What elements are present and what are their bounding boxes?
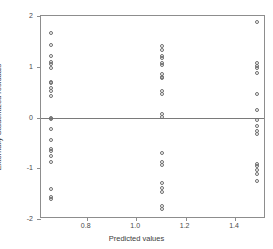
data-point (160, 63, 164, 67)
y-axis-tick-label: 2 (0, 12, 33, 19)
data-point (255, 172, 259, 176)
data-point (49, 149, 53, 153)
data-point (160, 190, 164, 194)
data-point (49, 81, 53, 85)
data-point (255, 124, 259, 128)
data-point (255, 168, 259, 172)
data-point (160, 76, 164, 80)
y-axis-tick-label: -1 (0, 164, 33, 171)
data-point (49, 187, 53, 191)
data-point (49, 127, 53, 131)
x-axis-tick-label: 1.4 (229, 222, 239, 229)
data-point (49, 43, 53, 47)
data-point (49, 160, 53, 164)
zero-reference-line (41, 118, 264, 119)
x-axis-tick-label: 0.8 (81, 222, 91, 229)
data-point (49, 94, 53, 98)
data-point (255, 118, 259, 122)
x-axis-tick (186, 217, 187, 221)
data-point (49, 117, 53, 121)
y-axis-title: Externally Studentized residuals (0, 64, 3, 171)
x-axis-tick (87, 217, 88, 221)
y-axis-tick (37, 219, 41, 220)
data-point (160, 92, 164, 96)
data-point (49, 89, 53, 93)
data-point (49, 154, 53, 158)
y-axis-tick (37, 168, 41, 169)
x-axis-tick-label: 1.0 (130, 222, 140, 229)
data-point (160, 48, 164, 52)
x-axis-tick-label: 1.2 (180, 222, 190, 229)
data-point (49, 54, 53, 58)
data-point (49, 197, 53, 201)
y-axis-tick-label: 0 (0, 113, 33, 120)
data-point (255, 132, 259, 136)
x-axis-title: Predicted values (0, 234, 273, 243)
data-point (255, 108, 259, 112)
data-point (255, 71, 259, 75)
data-point (160, 56, 164, 60)
data-point (160, 151, 164, 155)
x-axis-tick (136, 217, 137, 221)
plot-frame (40, 15, 265, 218)
data-point (255, 92, 259, 96)
data-point (49, 66, 53, 70)
plot-area (41, 16, 264, 217)
data-point (49, 138, 53, 142)
data-point (160, 163, 164, 167)
data-point (160, 186, 164, 190)
residual-scatter-chart: 210-1-2 0.81.01.21.4 Externally Studenti… (0, 0, 273, 249)
y-axis-tick (37, 16, 41, 17)
data-point (49, 31, 53, 35)
data-point (255, 20, 259, 24)
data-point (49, 62, 53, 66)
y-axis-tick (37, 118, 41, 119)
y-axis-tick-label: -2 (0, 215, 33, 222)
data-point (255, 66, 259, 70)
data-point (160, 207, 164, 211)
x-axis-tick (235, 217, 236, 221)
data-point (160, 181, 164, 185)
y-axis-tick-label: 1 (0, 62, 33, 69)
y-axis-tick (37, 67, 41, 68)
data-point (255, 179, 259, 183)
